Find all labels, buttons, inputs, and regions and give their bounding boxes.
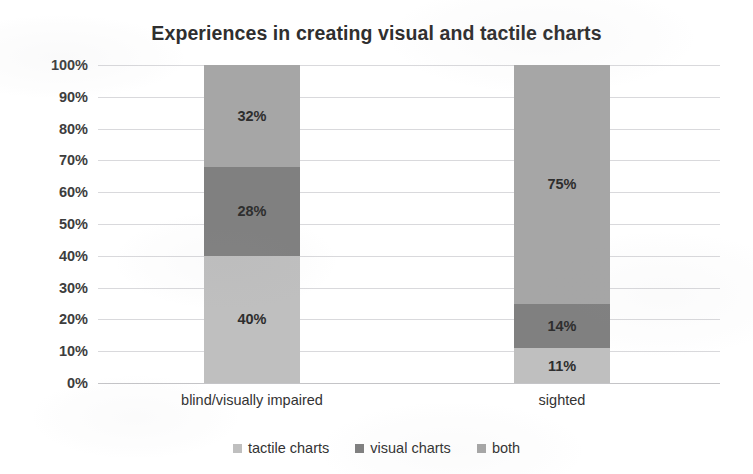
y-axis-tick-label: 40%: [0, 248, 88, 264]
gridline: [98, 288, 720, 289]
gridline: [98, 224, 720, 225]
legend-label: both: [492, 440, 520, 456]
bar-segment-value-label: 11%: [548, 358, 576, 374]
stacked-bar-chart: Experiences in creating visual and tacti…: [0, 0, 753, 474]
x-axis-category-label: blind/visually impaired: [122, 392, 382, 408]
gridline: [98, 319, 720, 320]
bar-segment-value-label: 75%: [547, 176, 576, 192]
gridline: [98, 256, 720, 257]
y-axis-tick-label: 60%: [0, 184, 88, 200]
bar-segment-value-label: 40%: [237, 311, 266, 327]
gridline: [98, 160, 720, 161]
bar-segment[interactable]: 28%: [204, 167, 300, 256]
x-axis-category-label: sighted: [432, 392, 692, 408]
y-axis-tick-label: 10%: [0, 343, 88, 359]
gridline: [98, 192, 720, 193]
y-axis: 100%90%80%70%60%50%40%30%20%10%0%: [0, 65, 88, 383]
chart-title: Experiences in creating visual and tacti…: [0, 22, 753, 45]
y-axis-tick-label: 50%: [0, 216, 88, 232]
y-axis-tick-label: 70%: [0, 152, 88, 168]
y-axis-tick-label: 30%: [0, 280, 88, 296]
bar-segment-value-label: 14%: [547, 318, 576, 334]
legend-swatch-icon: [355, 444, 364, 453]
chart-legend: tactile chartsvisual chartsboth: [0, 440, 753, 456]
y-axis-tick-label: 90%: [0, 89, 88, 105]
bar-segment[interactable]: 75%: [514, 65, 610, 304]
legend-swatch-icon: [477, 444, 486, 453]
bar-segment[interactable]: 32%: [204, 65, 300, 167]
legend-label: visual charts: [370, 440, 451, 456]
bar-column[interactable]: 11%14%75%: [514, 65, 610, 383]
y-axis-tick-label: 100%: [0, 57, 88, 73]
gridline: [98, 65, 720, 66]
bar-segment[interactable]: 40%: [204, 256, 300, 383]
legend-item[interactable]: tactile charts: [233, 440, 329, 456]
gridline: [98, 129, 720, 130]
gridline: [98, 351, 720, 352]
bar-segment-value-label: 32%: [237, 108, 266, 124]
y-axis-tick-label: 20%: [0, 311, 88, 327]
x-axis: blind/visually impairedsighted: [98, 392, 720, 418]
y-axis-tick-label: 80%: [0, 121, 88, 137]
legend-item[interactable]: visual charts: [355, 440, 451, 456]
plot-area: 40%28%32%11%14%75%: [98, 65, 720, 383]
bar-segment-value-label: 28%: [237, 203, 266, 219]
y-axis-tick-label: 0%: [0, 375, 88, 391]
legend-swatch-icon: [233, 444, 242, 453]
bar-segment[interactable]: 11%: [514, 348, 610, 383]
gridline: [98, 97, 720, 98]
bar-segment[interactable]: 14%: [514, 304, 610, 349]
legend-item[interactable]: both: [477, 440, 520, 456]
axis-baseline: [98, 383, 720, 384]
bar-column[interactable]: 40%28%32%: [204, 65, 300, 383]
legend-label: tactile charts: [248, 440, 329, 456]
